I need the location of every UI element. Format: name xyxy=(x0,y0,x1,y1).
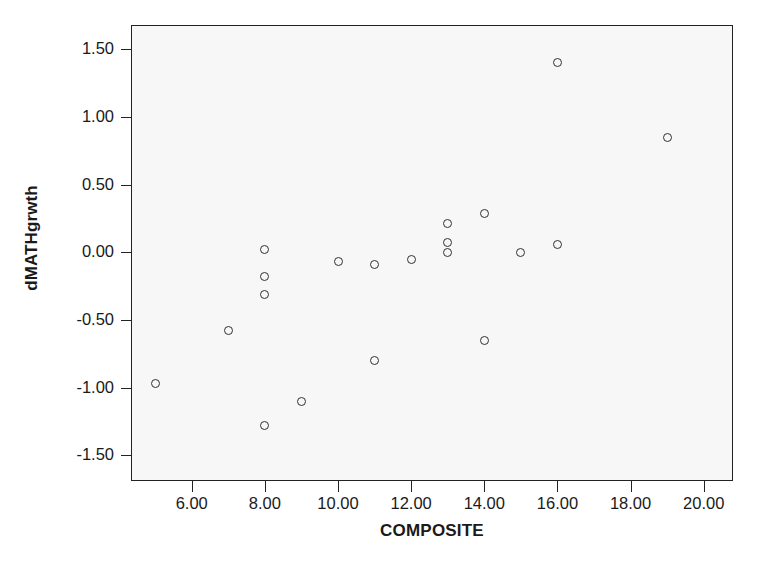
x-axis-tick xyxy=(557,481,558,492)
y-axis-tick xyxy=(121,252,132,253)
data-point xyxy=(151,379,160,388)
data-point xyxy=(663,133,672,142)
x-axis-tick xyxy=(192,481,193,492)
y-axis-title: dMATHgrwth xyxy=(22,138,42,338)
data-point xyxy=(553,240,562,249)
y-axis-tick-label: 0.00 xyxy=(44,242,114,261)
y-axis-tick xyxy=(121,455,132,456)
y-axis-tick-label: 0.50 xyxy=(44,175,114,194)
x-axis-tick-label: 16.00 xyxy=(517,494,597,513)
x-axis-tick-label: 14.00 xyxy=(444,494,524,513)
y-axis-tick xyxy=(121,185,132,186)
x-axis-tick-label: 10.00 xyxy=(298,494,378,513)
x-axis-tick xyxy=(704,481,705,492)
x-axis-tick xyxy=(265,481,266,492)
x-axis-tick-label: 12.00 xyxy=(371,494,451,513)
y-axis-tick-label: -0.50 xyxy=(44,310,114,329)
plot-area xyxy=(131,25,733,481)
y-axis-tick xyxy=(121,49,132,50)
y-axis-tick-label: 1.50 xyxy=(44,39,114,58)
x-axis-tick xyxy=(484,481,485,492)
data-point xyxy=(443,248,452,257)
data-point xyxy=(480,336,489,345)
x-axis-tick-label: 20.00 xyxy=(664,494,744,513)
y-axis-tick xyxy=(121,117,132,118)
x-axis-tick xyxy=(631,481,632,492)
data-point xyxy=(480,209,489,218)
y-axis-tick-label: 1.00 xyxy=(44,107,114,126)
x-axis-tick-label: 18.00 xyxy=(591,494,671,513)
data-point xyxy=(334,257,343,266)
x-axis-tick-label: 8.00 xyxy=(225,494,305,513)
x-axis-tick-label: 6.00 xyxy=(152,494,232,513)
y-axis-tick-label: -1.50 xyxy=(44,445,114,464)
data-point xyxy=(407,255,416,264)
y-axis-tick-label: -1.00 xyxy=(44,378,114,397)
x-axis-tick xyxy=(338,481,339,492)
y-axis-tick xyxy=(121,320,132,321)
y-axis-tick xyxy=(121,388,132,389)
x-axis-title: COMPOSITE xyxy=(131,521,733,541)
x-axis-tick xyxy=(411,481,412,492)
scatter-plot-figure: dMATHgrwth 1.501.000.500.00-0.50-1.00-1.… xyxy=(0,0,761,572)
data-point xyxy=(297,397,306,406)
data-point xyxy=(370,260,379,269)
